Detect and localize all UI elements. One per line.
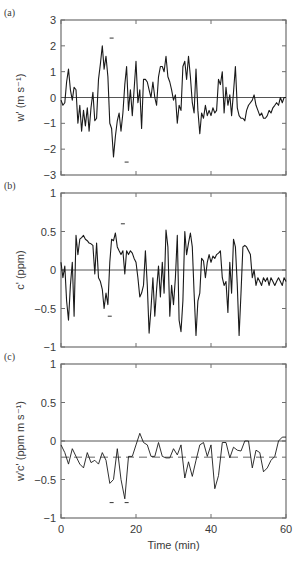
y-tick-label: 1: [50, 66, 56, 78]
y-tick-label: −2: [43, 143, 56, 155]
panel-label: (a): [4, 7, 15, 19]
y-axis-label: w'c' (ppm m s⁻¹): [14, 401, 26, 482]
y-tick-label: −1: [43, 512, 56, 524]
figure: −3−2−10123(a)w' (m s⁻¹) −1−0.500.51(b)c'…: [0, 0, 304, 563]
y-tick-label: 0: [50, 264, 56, 276]
y-tick-label: 0.5: [41, 397, 56, 409]
x-tick-label: 40: [205, 523, 217, 535]
y-tick-label: −3: [43, 169, 56, 181]
x-tick-label: 60: [280, 523, 292, 535]
data-series: [61, 433, 286, 499]
y-tick-label: 3: [50, 14, 56, 26]
data-series: [61, 230, 286, 335]
x-tick-label: 20: [130, 523, 142, 535]
x-tick-label: 0: [58, 523, 64, 535]
y-tick-label: −1: [43, 341, 56, 353]
y-axis-label: c' (ppm): [14, 250, 26, 289]
y-tick-label: −0.5: [34, 474, 56, 486]
y-tick-label: 1: [50, 187, 56, 199]
data-series: [61, 46, 286, 157]
y-axis-label: w' (m s⁻¹): [14, 74, 26, 123]
y-tick-label: 0: [50, 92, 56, 104]
y-tick-label: 1: [50, 358, 56, 370]
panel-b-c-prime: −1−0.500.51(b)c' (ppm): [4, 180, 286, 353]
y-tick-label: 0.5: [41, 226, 56, 238]
x-axis-label: Time (min): [147, 539, 199, 551]
y-tick-label: −1: [43, 117, 56, 129]
panel-label: (c): [4, 351, 15, 363]
panel-a-w-prime: −3−2−10123(a)w' (m s⁻¹): [4, 7, 286, 181]
y-tick-label: −0.5: [34, 303, 56, 315]
y-tick-label: 0: [50, 435, 56, 447]
y-tick-label: 2: [50, 40, 56, 52]
panel-label: (b): [4, 180, 16, 192]
panel-c-flux: −1−0.500.510204060(c)w'c' (ppm m s⁻¹)Tim…: [4, 351, 292, 551]
